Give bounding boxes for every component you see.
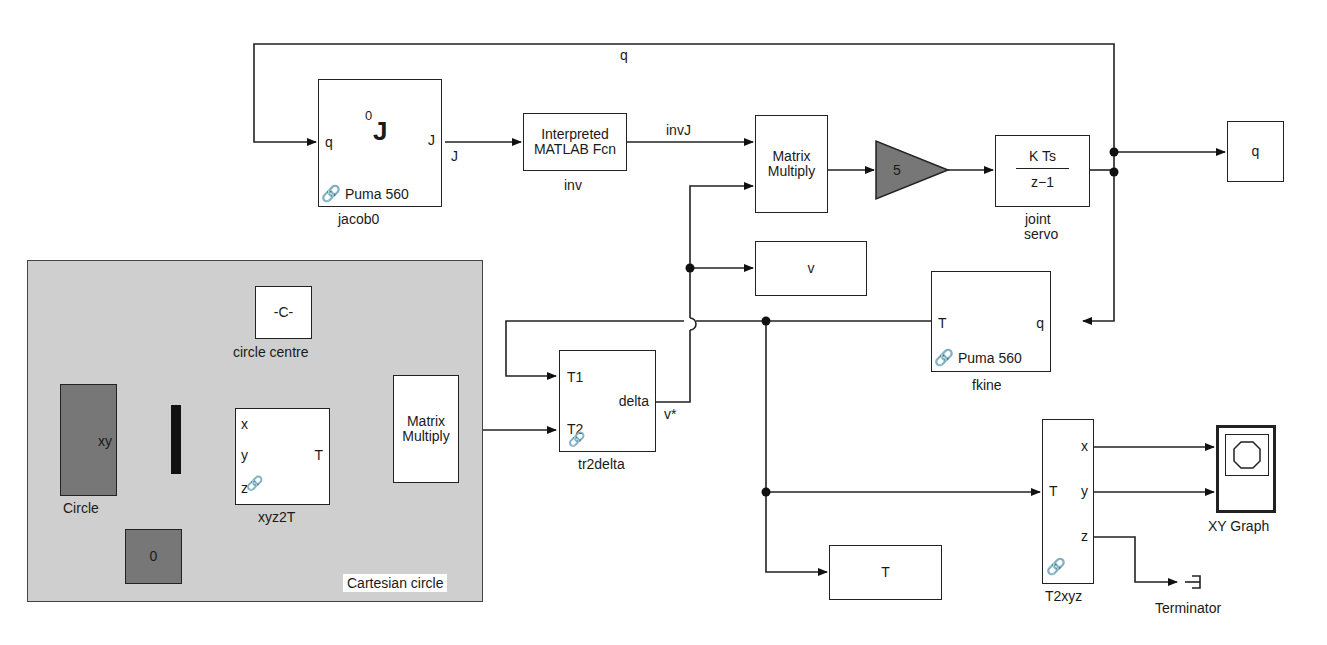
block-name-joint: joint — [1025, 211, 1051, 227]
block-q-workspace[interactable]: q — [1227, 121, 1284, 182]
block-xyz2T[interactable]: x y z T 🔗 — [235, 408, 330, 505]
signal-label-vstar: v* — [664, 406, 676, 422]
port-y: y — [241, 447, 248, 463]
port-T: T — [314, 447, 323, 463]
block-name-tr2delta: tr2delta — [578, 456, 625, 472]
v-out-label: v — [808, 261, 815, 276]
block-T2xyz[interactable]: T x y z 🔗 — [1042, 419, 1094, 584]
robot-name: Puma 560 — [345, 186, 409, 202]
library-link-icon: 🔗 — [934, 348, 954, 367]
block-jacob0[interactable]: q J 0 J 🔗 Puma 560 — [318, 79, 442, 207]
port-T: T — [938, 315, 947, 331]
library-link-icon: 🔗 — [568, 431, 585, 447]
signal-label-q: q — [620, 47, 628, 63]
inv-line2: MATLAB Fcn — [534, 142, 616, 157]
block-circle[interactable]: xy — [60, 384, 117, 496]
port-x: x — [1081, 438, 1088, 454]
matmul-line1: Matrix — [772, 149, 810, 164]
robot-name: Puma 560 — [958, 350, 1022, 366]
port-xy: xy — [98, 433, 112, 449]
library-link-icon: 🔗 — [321, 184, 341, 203]
block-name-terminator: Terminator — [1155, 600, 1221, 616]
tf-numerator: K Ts — [996, 148, 1089, 164]
scope-circle-icon — [1226, 435, 1268, 475]
library-link-icon: 🔗 — [1046, 557, 1066, 576]
constant-value: 0 — [150, 549, 158, 564]
block-name-xyz2T: xyz2T — [258, 509, 295, 525]
constant-value: -C- — [274, 305, 293, 320]
block-name-circle-centre: circle centre — [233, 344, 308, 360]
matmul-line2: Multiply — [768, 164, 815, 179]
signal-label-invJ: invJ — [666, 122, 691, 138]
block-matrix-multiply-top[interactable]: Matrix Multiply — [755, 115, 828, 213]
port-J: J — [428, 132, 435, 148]
library-link-icon: 🔗 — [246, 475, 263, 491]
block-name-T2xyz: T2xyz — [1045, 588, 1082, 604]
block-name-xy-graph: XY Graph — [1208, 518, 1269, 534]
signal-label-J: J — [451, 148, 458, 164]
block-name-inv: inv — [564, 177, 582, 193]
block-joint-servo[interactable]: K Ts z−1 — [995, 135, 1090, 207]
icon-superscript: 0 — [365, 108, 372, 123]
block-circle-centre[interactable]: -C- — [255, 286, 312, 339]
inv-line1: Interpreted — [541, 127, 609, 142]
block-name-circle: Circle — [63, 500, 99, 516]
tf-denominator: z−1 — [996, 174, 1089, 190]
jacobian-icon: J — [373, 116, 387, 147]
matmul-line2: Multiply — [402, 429, 449, 444]
block-inv[interactable]: Interpreted MATLAB Fcn — [523, 113, 627, 171]
port-delta: delta — [619, 393, 649, 409]
block-name-jacob0: jacob0 — [338, 211, 379, 227]
port-q: q — [1036, 315, 1044, 331]
block-name-fkine: fkine — [972, 377, 1002, 393]
block-name-servo: servo — [1024, 226, 1058, 242]
block-matrix-multiply-sub[interactable]: Matrix Multiply — [393, 375, 459, 483]
gain-value[interactable]: 5 — [893, 162, 901, 178]
port-T: T — [1049, 483, 1058, 499]
block-zero-constant[interactable]: 0 — [125, 529, 182, 584]
block-fkine[interactable]: T q 🔗 Puma 560 — [931, 271, 1051, 372]
block-v-workspace[interactable]: v — [755, 241, 867, 296]
q-out-label: q — [1252, 144, 1260, 159]
block-tr2delta[interactable]: T1 T2 delta 🔗 — [559, 350, 656, 452]
T-out-label: T — [881, 565, 890, 580]
port-y: y — [1081, 483, 1088, 499]
port-x: x — [241, 416, 248, 432]
block-T-workspace[interactable]: T — [829, 545, 942, 600]
tf-fraction-bar — [1016, 168, 1069, 169]
port-q: q — [325, 134, 333, 150]
port-z: z — [1081, 528, 1088, 544]
mux-block[interactable] — [171, 405, 181, 474]
matmul-line1: Matrix — [407, 414, 445, 429]
port-T1: T1 — [567, 369, 583, 385]
subsystem-label: Cartesian circle — [343, 574, 447, 592]
scope-screen — [1225, 434, 1269, 476]
block-xy-graph[interactable] — [1216, 425, 1276, 513]
gain-triangle — [876, 141, 948, 199]
